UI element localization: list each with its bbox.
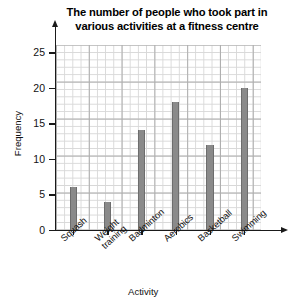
bar [241, 88, 248, 230]
chart-title: The number of people who took part in va… [36, 6, 298, 33]
y-axis-arrow-icon [52, 20, 58, 27]
x-axis-title: Activity [128, 286, 158, 297]
y-axis-tick-label: 0 [5, 224, 45, 236]
y-axis-tick [49, 88, 55, 89]
y-axis-tick [49, 194, 55, 195]
grid-major [56, 45, 261, 230]
grid-minor [56, 45, 261, 230]
bar [138, 130, 145, 230]
chart-title-line-2: various activities at a fitness centre [36, 20, 298, 34]
plot-area [56, 45, 261, 230]
y-axis-tick [49, 159, 55, 160]
y-axis-tick-label: 5 [5, 188, 45, 200]
y-axis-tick-label: 20 [5, 82, 45, 94]
y-axis-tick-label: 25 [5, 46, 45, 58]
y-axis-tick [49, 52, 55, 53]
chart-title-line-1: The number of people who took part in [36, 6, 298, 20]
y-axis-title: Frequency [12, 99, 23, 169]
y-axis-line [55, 26, 57, 231]
y-axis-tick [49, 230, 55, 231]
bar-chart: The number of people who took part in va… [0, 0, 303, 303]
x-axis-arrow-icon [281, 227, 288, 233]
y-axis-tick [49, 123, 55, 124]
bar [172, 102, 179, 230]
bar [206, 145, 213, 230]
